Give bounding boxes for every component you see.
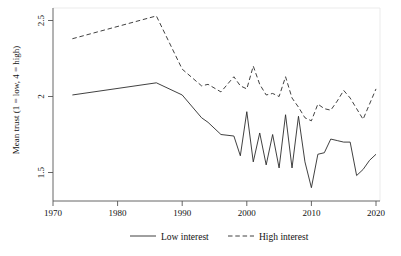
legend-label-high-interest: High interest [259,232,309,242]
plot-frame [53,8,380,201]
x-tick-label-1980: 1980 [109,208,128,218]
series-low-interest [72,83,376,188]
chart-figure: 2.5 2 1.5 Mean trust (1 = low, 4 = high)… [0,0,401,256]
y-tick-label-2: 2 [36,94,46,99]
x-tick-label-1970: 1970 [44,208,63,218]
x-tick-label-2000: 2000 [238,208,257,218]
legend-label-low-interest: Low interest [161,232,209,242]
line-chart: 2.5 2 1.5 Mean trust (1 = low, 4 = high)… [0,0,401,256]
y-tick-label-1.5: 1.5 [36,166,46,178]
x-tick-label-1990: 1990 [173,208,192,218]
series-high-interest [72,16,376,121]
x-tick-label-2020: 2020 [367,208,386,218]
x-tick-label-2010: 2010 [302,208,321,218]
y-axis-title: Mean trust (1 = low, 4 = high) [11,46,21,155]
y-tick-label-2.5: 2.5 [36,14,46,26]
